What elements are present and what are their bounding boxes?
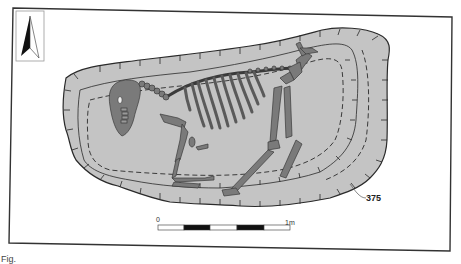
context-number: 375 (366, 193, 381, 203)
figure-caption: Fig. (1, 254, 16, 264)
north-arrow (16, 11, 44, 61)
scale-end-label: 1m (285, 219, 295, 226)
scale-start-label: 0 (156, 216, 160, 223)
